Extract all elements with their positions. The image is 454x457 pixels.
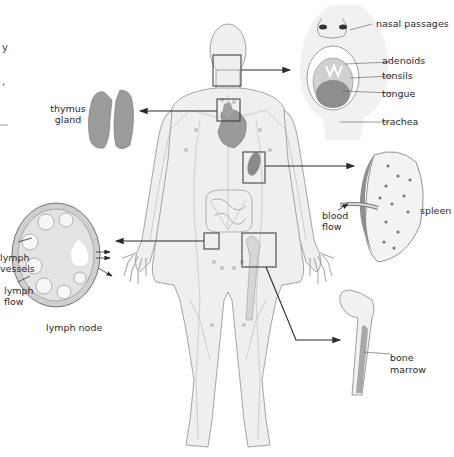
label-nasal-passages: nasal passages xyxy=(376,18,449,29)
label-bone-line2: marrow xyxy=(390,364,426,375)
label-tongue: tongue xyxy=(382,88,415,99)
label-bone-line1: bone xyxy=(390,352,414,363)
label-trachea: trachea xyxy=(382,116,418,127)
thymus-detail xyxy=(88,90,133,149)
spleen-detail xyxy=(338,152,423,262)
label-blood-flow-line1: blood xyxy=(322,210,348,221)
bone-detail xyxy=(340,290,390,395)
label-adenoids: adenoids xyxy=(382,55,425,66)
edge-fragment-1: y xyxy=(2,42,8,53)
label-lymph-vessels-line2: vessels xyxy=(0,263,35,274)
nostril-left xyxy=(319,25,327,30)
label-tonsils: tonsils xyxy=(382,70,413,81)
label-blood-flow-line2: flow xyxy=(322,221,342,232)
label-thymus-line1: thymus xyxy=(48,103,88,114)
label-spleen: spleen xyxy=(420,205,451,216)
head-detail xyxy=(300,5,388,140)
label-lymph-vessels-line1: lymph xyxy=(0,252,30,263)
tongue-shape xyxy=(316,80,350,108)
label-lymph-flow-line1: lymph xyxy=(4,285,34,296)
nostril-right xyxy=(339,25,347,30)
lymphatic-diagram xyxy=(0,0,454,457)
label-lymph-node: lymph node xyxy=(46,322,102,333)
edge-fragment-2: , xyxy=(2,76,5,87)
label-thymus-line2: gland xyxy=(48,114,88,125)
label-lymph-flow-line2: flow xyxy=(4,296,24,307)
